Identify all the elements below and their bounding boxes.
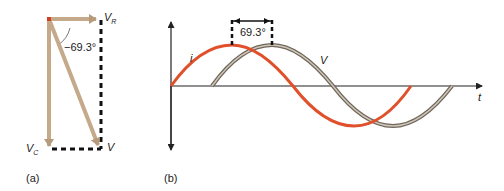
voltage-label: V: [320, 54, 327, 66]
vc-label: VC: [26, 142, 38, 156]
v-phasor-arrow: [49, 19, 98, 145]
origin-point: [47, 17, 51, 21]
time-label: t: [478, 91, 481, 103]
vr-label: VR: [104, 11, 116, 25]
current-label: i: [190, 52, 192, 64]
waveform-plot: [171, 18, 482, 150]
phasor-diagram: [47, 17, 101, 149]
angle-label: −69.3°: [64, 41, 96, 53]
panel-b-label: (b): [164, 172, 177, 184]
phase-label: 69.3°: [240, 26, 266, 38]
v-phasor-label: V: [107, 141, 114, 153]
panel-a-label: (a): [26, 172, 39, 184]
